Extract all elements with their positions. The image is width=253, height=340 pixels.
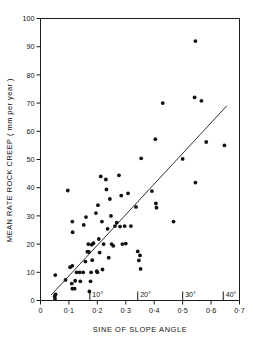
x-tick-label: 0·6 bbox=[206, 306, 216, 315]
data-point bbox=[124, 242, 128, 246]
y-tick-label: 60 bbox=[27, 127, 35, 136]
data-point bbox=[89, 279, 93, 283]
scatter-chart: 0102030405060708090100 00·10·20·30·40·50… bbox=[0, 0, 253, 340]
data-point bbox=[96, 203, 100, 207]
data-point bbox=[54, 292, 58, 296]
x-tick-label: 0·4 bbox=[149, 306, 159, 315]
data-point bbox=[154, 202, 158, 206]
data-point bbox=[139, 156, 143, 160]
x-tick-label: 0·3 bbox=[121, 306, 131, 315]
data-point bbox=[78, 279, 82, 283]
data-point bbox=[82, 223, 86, 227]
data-point bbox=[94, 211, 98, 215]
data-point bbox=[99, 175, 103, 179]
data-point bbox=[86, 242, 90, 246]
y-tick-label: 80 bbox=[27, 71, 35, 80]
data-point bbox=[95, 270, 99, 274]
data-point bbox=[204, 140, 208, 144]
data-point bbox=[193, 96, 197, 100]
data-point bbox=[107, 256, 111, 260]
data-point bbox=[98, 251, 102, 255]
data-point bbox=[102, 242, 106, 246]
x-axis-tick-labels: 00·10·20·30·40·50·60·7 bbox=[39, 306, 245, 315]
data-point bbox=[136, 250, 140, 254]
data-point bbox=[73, 287, 77, 291]
data-point bbox=[129, 224, 133, 228]
y-tick-label: 100 bbox=[23, 14, 35, 23]
y-axis-title: MEAN RATE ROCK CREEP ( mm per year ) bbox=[5, 78, 14, 242]
data-point bbox=[126, 191, 130, 195]
angle-label: 40° bbox=[226, 291, 237, 298]
data-point bbox=[104, 178, 108, 182]
data-point bbox=[120, 242, 124, 246]
data-point bbox=[150, 189, 154, 193]
angle-label: 30° bbox=[185, 291, 196, 298]
data-point bbox=[172, 220, 176, 224]
data-point bbox=[118, 225, 122, 229]
data-point bbox=[123, 224, 127, 228]
data-point bbox=[153, 137, 157, 141]
x-tick-label: 0·7 bbox=[234, 306, 244, 315]
data-point bbox=[90, 258, 94, 262]
data-point bbox=[109, 214, 113, 218]
angle-marker-ticks bbox=[90, 292, 223, 301]
y-tick-label: 30 bbox=[27, 212, 35, 221]
data-point bbox=[117, 173, 121, 177]
x-axis-ticks bbox=[41, 301, 240, 305]
y-tick-label: 0 bbox=[31, 296, 35, 305]
data-point bbox=[70, 264, 74, 268]
data-point bbox=[73, 279, 77, 283]
x-axis-title: SINE OF SLOPE ANGLE bbox=[93, 325, 187, 334]
y-tick-label: 10 bbox=[27, 268, 35, 277]
x-tick-label: 0 bbox=[39, 306, 43, 315]
data-point bbox=[78, 270, 82, 274]
data-point bbox=[200, 99, 204, 103]
data-point bbox=[88, 290, 92, 294]
data-point bbox=[119, 194, 123, 198]
figure-container: 0102030405060708090100 00·10·20·30·40·50… bbox=[0, 0, 253, 340]
data-point bbox=[105, 187, 109, 191]
data-point bbox=[81, 270, 85, 274]
data-point bbox=[194, 181, 198, 185]
data-point bbox=[70, 282, 74, 286]
data-point bbox=[101, 268, 105, 272]
data-point bbox=[71, 230, 75, 234]
y-tick-label: 20 bbox=[27, 240, 35, 249]
x-tick-label: 0·2 bbox=[92, 306, 102, 315]
angle-label: 10° bbox=[92, 291, 103, 298]
angle-marker-labels: 10°20°30°40° bbox=[92, 291, 236, 298]
data-point bbox=[53, 273, 57, 277]
data-point bbox=[89, 270, 93, 274]
y-tick-label: 50 bbox=[27, 155, 35, 164]
data-point bbox=[97, 237, 101, 241]
data-point bbox=[139, 267, 143, 271]
data-point bbox=[181, 157, 185, 161]
data-point bbox=[84, 215, 88, 219]
data-point bbox=[91, 241, 95, 245]
data-point bbox=[223, 144, 227, 148]
data-point bbox=[53, 297, 57, 301]
x-tick-label: 0·1 bbox=[64, 306, 74, 315]
data-point bbox=[108, 197, 112, 201]
angle-label: 20° bbox=[140, 291, 151, 298]
x-tick-label: 0·5 bbox=[177, 306, 187, 315]
data-point bbox=[100, 220, 104, 224]
data-point bbox=[155, 206, 159, 210]
y-axis-tick-labels: 0102030405060708090100 bbox=[23, 14, 35, 305]
data-point bbox=[106, 227, 110, 231]
data-point bbox=[66, 189, 70, 193]
data-point-group bbox=[53, 39, 227, 301]
data-point bbox=[137, 259, 141, 263]
data-point bbox=[70, 220, 74, 224]
y-tick-label: 40 bbox=[27, 183, 35, 192]
y-axis-ticks bbox=[37, 19, 41, 301]
data-point bbox=[84, 260, 88, 264]
y-tick-label: 70 bbox=[27, 99, 35, 108]
regression-line bbox=[51, 106, 226, 295]
data-point bbox=[138, 253, 142, 257]
y-tick-label: 90 bbox=[27, 42, 35, 51]
data-point bbox=[111, 244, 115, 248]
data-point bbox=[161, 101, 165, 105]
data-point bbox=[194, 39, 198, 43]
